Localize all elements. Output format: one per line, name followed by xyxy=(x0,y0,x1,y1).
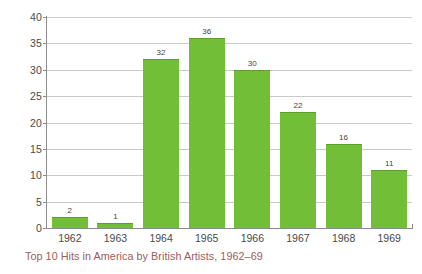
gridline xyxy=(47,96,412,97)
bar-value-label: 22 xyxy=(278,101,318,110)
x-axis-tick-label: 1966 xyxy=(226,232,278,244)
bar xyxy=(143,59,179,228)
x-axis-tick-label: 1963 xyxy=(89,232,141,244)
chart-caption: Top 10 Hits in America by British Artist… xyxy=(25,249,263,263)
y-axis-tick-group: 0510152025303540 xyxy=(0,0,42,274)
x-axis-tick-label: 1968 xyxy=(318,232,370,244)
gridline xyxy=(47,123,412,124)
gridline xyxy=(47,43,412,44)
bar-value-label: 11 xyxy=(369,159,409,168)
gridline xyxy=(47,228,412,229)
y-axis-tick-label: 25 xyxy=(2,91,42,101)
y-axis-tick-label: 0 xyxy=(2,223,42,233)
y-axis-tick-label: 40 xyxy=(2,12,42,22)
bar xyxy=(326,144,362,228)
bar-value-label: 16 xyxy=(324,133,364,142)
gridline xyxy=(47,17,412,18)
bar-value-label: 36 xyxy=(187,27,227,36)
x-axis-tick-label: 1965 xyxy=(181,232,233,244)
y-axis-tick-label: 20 xyxy=(2,118,42,128)
bar-value-label: 32 xyxy=(141,48,181,57)
bar xyxy=(371,170,407,228)
y-axis-tick-label: 35 xyxy=(2,38,42,48)
bar-value-label: 1 xyxy=(95,212,135,221)
bar xyxy=(189,38,225,228)
bar xyxy=(234,70,270,228)
x-axis-tick-label: 1962 xyxy=(44,232,96,244)
y-axis-tick-label: 15 xyxy=(2,144,42,154)
x-axis-tick-label: 1964 xyxy=(135,232,187,244)
x-axis-tick-label: 1969 xyxy=(363,232,415,244)
bar xyxy=(52,217,88,228)
bar-value-label: 2 xyxy=(50,206,90,215)
x-axis-end-tick xyxy=(412,224,413,229)
y-axis-tick-label: 30 xyxy=(2,65,42,75)
bar xyxy=(280,112,316,228)
plot-area: 21323630221611 xyxy=(47,17,412,228)
bar-chart-figure: 0510152025303540 21323630221611 19621963… xyxy=(0,0,422,274)
x-axis-tick-label: 1967 xyxy=(272,232,324,244)
bar xyxy=(97,223,133,228)
bar-value-label: 30 xyxy=(232,59,272,68)
y-axis-tick-label: 5 xyxy=(2,197,42,207)
y-axis-tick-label: 10 xyxy=(2,170,42,180)
gridline xyxy=(47,70,412,71)
